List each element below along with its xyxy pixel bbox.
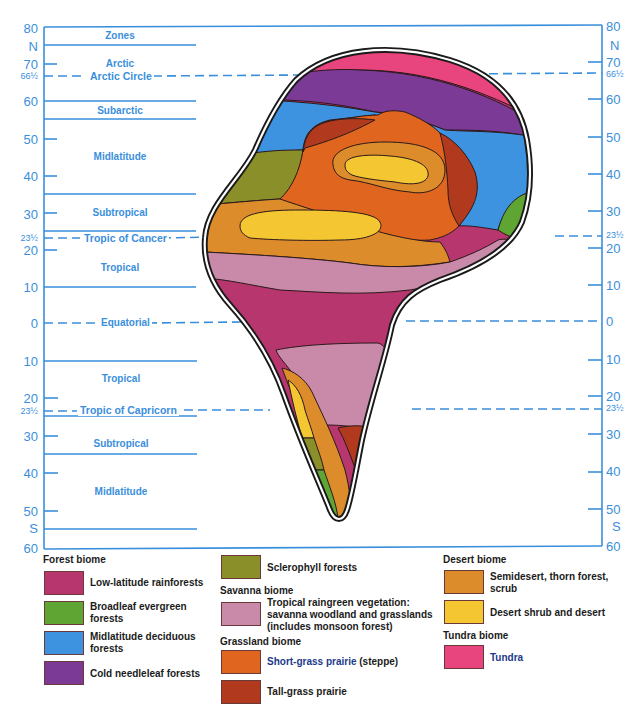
zone-tropical-south: Tropical bbox=[46, 373, 196, 385]
swatch-low-latitude-rainforest bbox=[44, 571, 84, 595]
swatch-short-grass-prairie bbox=[221, 650, 261, 674]
zone-midlatitude-north: Midlatitude bbox=[45, 151, 195, 163]
forest-biome-heading: Forest biome bbox=[43, 554, 106, 565]
right-lat-20s: 20 bbox=[606, 390, 640, 403]
label-broadleaf-evergreen-1: Broadleaf evergreen bbox=[90, 601, 187, 613]
swatch-midlatitude-deciduous bbox=[44, 631, 84, 655]
left-lat-30n: 30 bbox=[0, 208, 38, 221]
zone-subtropical-south: Subtropical bbox=[46, 438, 196, 450]
left-lat-23-5s: 23½ bbox=[0, 407, 38, 416]
label-short-grass-suffix: (steppe) bbox=[356, 656, 398, 667]
right-lat-30s: 30 bbox=[606, 428, 640, 441]
right-lat-23-5s: 23½ bbox=[606, 404, 640, 413]
left-lat-0: 0 bbox=[0, 317, 38, 330]
left-lat-20n: 20 bbox=[0, 244, 38, 257]
right-lat-50n: 50 bbox=[606, 131, 640, 144]
right-lat-80: 80 bbox=[606, 20, 640, 33]
grassland-biome-heading: Grassland biome bbox=[220, 636, 301, 647]
label-tundra: Tundra bbox=[490, 652, 523, 664]
left-lat-40s: 40 bbox=[0, 467, 38, 480]
right-lat-40s: 40 bbox=[606, 465, 640, 478]
left-lat-50s: 50 bbox=[0, 505, 38, 518]
zone-arctic: Arctic bbox=[45, 58, 195, 70]
swatch-desert bbox=[444, 600, 484, 624]
left-lat-20s: 20 bbox=[0, 392, 38, 405]
swatch-savanna bbox=[221, 602, 261, 626]
left-lat-10n: 10 bbox=[0, 281, 38, 294]
label-midlatitude-deciduous-2: forests bbox=[90, 643, 123, 655]
hypothetical-continent bbox=[190, 30, 540, 530]
right-lat-10s: 10 bbox=[606, 353, 640, 366]
swatch-cold-needleleaf bbox=[44, 661, 84, 685]
left-lat-70: 70 bbox=[0, 58, 38, 71]
label-low-latitude-rainforest: Low-latitude rainforests bbox=[90, 577, 203, 589]
right-lat-23-5n: 23½ bbox=[606, 231, 640, 240]
label-short-grass-main: Short-grass prairie bbox=[267, 656, 356, 667]
savanna-biome-heading: Savanna biome bbox=[220, 585, 293, 596]
right-lat-60s: 60 bbox=[606, 540, 640, 553]
right-lat-50s: 50 bbox=[606, 503, 640, 516]
label-semidesert-1: Semidesert, thorn forest, bbox=[490, 571, 608, 583]
swatch-semidesert bbox=[444, 570, 484, 594]
left-lat-60n: 60 bbox=[0, 95, 38, 108]
swatch-tall-grass-prairie bbox=[221, 680, 261, 704]
right-lat-66-5: 66½ bbox=[606, 70, 640, 79]
right-lat-20n: 20 bbox=[606, 242, 640, 255]
right-lat-40n: 40 bbox=[606, 168, 640, 181]
label-midlatitude-deciduous-1: Midlatitude deciduous bbox=[90, 631, 196, 643]
tropic-of-cancer-label: Tropic of Cancer bbox=[82, 232, 169, 244]
label-tall-grass-prairie: Tall-grass prairie bbox=[267, 686, 347, 698]
region-desert-west bbox=[240, 210, 381, 240]
left-lat-40n: 40 bbox=[0, 170, 38, 183]
zone-subarctic: Subarctic bbox=[45, 105, 195, 117]
left-lat-80: 80 bbox=[0, 22, 38, 35]
region-broadleaf-southeast bbox=[368, 420, 384, 455]
equatorial-label: Equatorial bbox=[99, 317, 152, 329]
right-south-marker: S bbox=[612, 520, 644, 533]
right-north-marker: N bbox=[610, 39, 644, 52]
swatch-sclerophyll bbox=[221, 555, 261, 579]
left-lat-30s: 30 bbox=[0, 430, 38, 443]
label-savanna-2: savanna woodland and grasslands bbox=[267, 609, 433, 621]
swatch-tundra bbox=[444, 645, 484, 669]
left-lat-60s: 60 bbox=[0, 542, 38, 555]
desert-biome-heading: Desert biome bbox=[443, 554, 506, 565]
label-short-grass-prairie: Short-grass prairie (steppe) bbox=[267, 656, 398, 668]
zone-subtropical-north: Subtropical bbox=[45, 207, 195, 219]
left-south-marker: S bbox=[0, 522, 38, 535]
zone-midlatitude-south: Midlatitude bbox=[46, 486, 196, 498]
left-lat-10s: 10 bbox=[0, 355, 38, 368]
left-north-marker: N bbox=[0, 40, 38, 53]
label-cold-needleleaf: Cold needleleaf forests bbox=[90, 668, 200, 680]
arctic-circle-label: Arctic Circle bbox=[88, 70, 154, 82]
label-savanna-1: Tropical raingreen vegetation: bbox=[267, 597, 410, 609]
right-lat-10n: 10 bbox=[606, 279, 640, 292]
left-lat-50n: 50 bbox=[0, 133, 38, 146]
label-broadleaf-evergreen-2: forests bbox=[90, 613, 123, 625]
right-lat-30n: 30 bbox=[606, 205, 640, 218]
tropic-of-capricorn-label: Tropic of Capricorn bbox=[78, 404, 179, 416]
left-lat-23-5n: 23½ bbox=[0, 234, 38, 243]
label-savanna-3: (includes monsoon forest) bbox=[267, 621, 393, 633]
right-lat-60n: 60 bbox=[606, 93, 640, 106]
swatch-broadleaf-evergreen bbox=[44, 601, 84, 625]
label-semidesert-2: scrub bbox=[490, 583, 517, 595]
zone-tropical-north: Tropical bbox=[45, 262, 195, 274]
right-lat-0: 0 bbox=[606, 315, 640, 328]
right-lat-70: 70 bbox=[606, 56, 640, 69]
zones-header: Zones bbox=[45, 30, 195, 42]
tundra-biome-heading: Tundra biome bbox=[443, 630, 508, 641]
left-lat-66-5: 66½ bbox=[0, 72, 38, 81]
label-desert: Desert shrub and desert bbox=[490, 607, 605, 619]
label-sclerophyll: Sclerophyll forests bbox=[267, 562, 357, 574]
right-axis bbox=[588, 25, 602, 546]
